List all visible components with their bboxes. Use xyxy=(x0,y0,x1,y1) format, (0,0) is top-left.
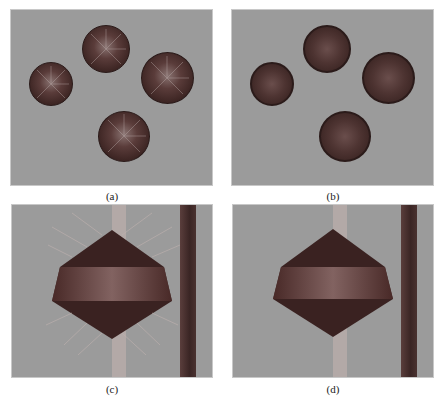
panel-b xyxy=(231,9,434,186)
panel-c xyxy=(11,204,213,378)
sphere-1 xyxy=(250,62,294,106)
bicone-shape xyxy=(12,205,213,378)
caption-b: (b) xyxy=(303,190,363,202)
bicone-shape xyxy=(233,205,434,378)
sphere-4 xyxy=(319,111,371,162)
caption-d: (d) xyxy=(303,383,363,395)
panel-a xyxy=(10,9,213,186)
panel-d xyxy=(232,204,434,378)
sphere-3 xyxy=(362,52,415,104)
caption-c: (c) xyxy=(82,383,142,395)
caption-a: (a) xyxy=(82,190,142,202)
sphere-2 xyxy=(303,25,351,73)
normal-vectors-overlay xyxy=(11,10,213,186)
